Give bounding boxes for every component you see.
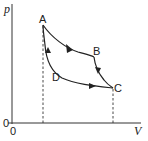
arrow-B-C-icon — [95, 67, 101, 74]
arrow-C-D-icon — [89, 83, 96, 89]
arrow-A-B-icon — [66, 44, 73, 53]
point-label-A: A — [39, 14, 46, 25]
origin-x-label: 0 — [10, 126, 16, 137]
point-label-D: D — [52, 72, 60, 83]
x-axis-label: V — [134, 125, 141, 137]
pv-diagram-graphic — [0, 0, 148, 141]
point-label-C: C — [114, 83, 122, 94]
path-B-C — [94, 57, 113, 88]
point-label-B: B — [93, 46, 100, 57]
y-axis-label: p — [4, 3, 10, 15]
pv-diagram: p 0 0 V A B C D — [0, 0, 148, 141]
origin-y-label: 0 — [3, 118, 9, 129]
